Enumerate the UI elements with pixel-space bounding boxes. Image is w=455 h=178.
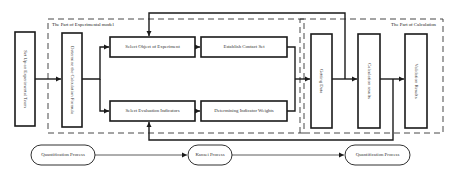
arrow-determine-to-select-indicators <box>100 79 109 111</box>
process-label: Quantification Process <box>356 152 400 157</box>
process-label: Quantification Process <box>41 152 85 157</box>
quantification-process-oval-1: Quantification Process <box>31 145 95 165</box>
select-object-box: Select Object of Experiment <box>110 37 195 57</box>
indicator-weights-box: Determining Indicator Weights <box>201 101 287 121</box>
calculation-region-label: The Part of Calculation <box>391 22 436 27</box>
validation-results-label: Validation Results <box>414 63 419 98</box>
establish-contact-box: Establish Contact Set <box>201 37 287 57</box>
calc-results-box: Calculation results <box>358 34 380 128</box>
experimental-model-region-label: The Part of Experimental model <box>52 22 114 27</box>
getting-data-box: Getting Data <box>311 34 332 128</box>
calc-results-label: Calculation results <box>367 63 372 99</box>
determine-formula-label: Determine the Calculation Formula <box>70 46 75 115</box>
determine-formula-box: Determine the Calculation Formula <box>62 33 82 127</box>
quantification-process-oval-2: Quantification Process <box>345 145 410 165</box>
select-indicators-label: Select Evaluation Indicators <box>125 108 179 113</box>
indicator-weights-label: Determining Indicator Weights <box>214 108 274 113</box>
flowchart-diagram: The Part of Experimental model The Part … <box>0 0 455 178</box>
establish-contact-label: Establish Contact Set <box>223 44 265 49</box>
process-label: Kansei Process <box>195 152 224 157</box>
select-object-label: Select Object of Experiment <box>125 44 180 49</box>
arrow-determine-to-select-object <box>82 47 109 79</box>
getting-data-label: Getting Data <box>319 69 324 95</box>
select-indicators-box: Select Evaluation Indicators <box>110 101 195 121</box>
setup-team-label: Set Up an Experimental Team <box>23 50 28 108</box>
setup-team-box: Set Up an Experimental Team <box>15 32 35 126</box>
validation-results-box: Validation Results <box>405 34 427 128</box>
kansei-process-oval: Kansei Process <box>188 145 232 165</box>
connector-merge <box>287 47 295 111</box>
